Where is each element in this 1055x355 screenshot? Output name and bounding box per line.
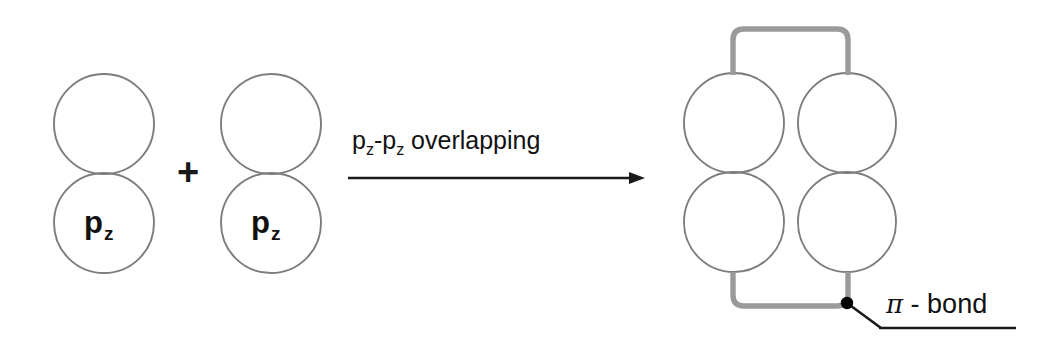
orbital-label-right-symbol: p — [251, 205, 270, 240]
leader-diagonal-segment — [847, 303, 881, 328]
product-lobe-top-right — [798, 73, 896, 173]
orbital-lobe-upper — [54, 74, 154, 174]
caption-sub-first: z — [366, 141, 374, 158]
leader-anchor-dot — [841, 297, 853, 309]
reaction-arrow — [348, 172, 645, 184]
caption-sub-second: z — [396, 141, 404, 158]
pi-overlap-bracket-bottom — [733, 272, 848, 306]
arrow-caption: pz-pz overlapping — [352, 128, 540, 153]
orbital-label-left-symbol: p — [84, 205, 103, 240]
product-lobe-bottom-right — [798, 172, 896, 272]
caption-p-first: p — [352, 126, 366, 154]
product-orbital-cluster — [684, 73, 896, 272]
product-lobe-top-left — [684, 73, 784, 173]
caption-overlapping-word: overlapping — [404, 126, 540, 154]
caption-dash-p: -p — [374, 126, 396, 154]
orbital-label-right-subscript: z — [271, 223, 281, 244]
arrow-head — [629, 172, 645, 184]
pi-symbol: π — [886, 289, 903, 319]
plus-operator: + — [177, 153, 199, 191]
product-lobe-bottom-left — [684, 172, 784, 272]
pi-overlap-bracket-top — [733, 29, 848, 75]
orbital-overlap-diagram: pz + pz pz-pz overlapping π - bond — [0, 0, 1055, 355]
pi-label-separator: - — [903, 289, 927, 319]
orbital-lobe-upper — [221, 74, 321, 174]
orbital-label-left-subscript: z — [104, 223, 114, 244]
orbital-label-left: pz — [84, 207, 112, 238]
pi-bond-label: π - bond — [886, 291, 987, 318]
orbital-label-right: pz — [251, 207, 279, 238]
pi-label-word: bond — [927, 289, 987, 319]
